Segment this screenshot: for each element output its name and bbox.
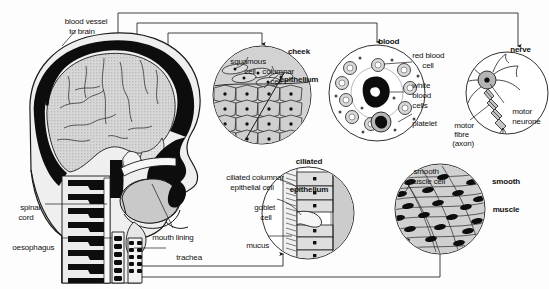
goblet-cell-text: cell	[260, 213, 271, 222]
platelet-text: platelet	[412, 119, 437, 128]
label-trachea: trachea	[168, 244, 202, 272]
spinal-cord-text: spinal cord	[19, 203, 41, 221]
trachea-text: trachea	[176, 253, 202, 262]
blood-title-text: blood	[378, 37, 399, 46]
label-neurone: neurone	[504, 108, 541, 136]
label-smooth-muscle-cell-2: muscle cell	[392, 168, 452, 196]
mouth-lining-text: mouth lining	[152, 233, 193, 242]
ciliated-title-line2: epithelium	[278, 185, 340, 194]
red-blood-cell-text: cell	[422, 61, 433, 70]
label-mucus: mucus	[238, 232, 269, 260]
columnar-cell-text: cell	[270, 77, 281, 86]
motor-fibre-3-text: (axon)	[452, 139, 474, 148]
label-squamous-cell: cell	[236, 58, 256, 86]
label-motor-fibre-3: (axon)	[444, 130, 474, 158]
blood-vessel-text: blood vessel to brain	[65, 17, 108, 35]
label-spinal-cord: spinal cord	[6, 194, 46, 232]
ciliated-title-line1: ciliated	[278, 157, 340, 166]
smooth-title-line1: smooth	[478, 177, 534, 186]
smooth-cell-2-text: muscle cell	[407, 177, 445, 186]
label-platelet: platelet	[404, 110, 437, 138]
inset-title-blood: blood	[370, 28, 399, 56]
epithelial-cell-text: epithelial cell	[230, 183, 274, 192]
label-oesophagus: oesophagus	[4, 234, 54, 262]
diagram-canvas: blood vessel to brain spinal cord oesoph…	[0, 0, 549, 289]
mucus-text: mucus	[246, 241, 269, 250]
oesophagus-text: oesophagus	[12, 243, 54, 252]
inset-title-ciliated-epithelium: ciliated epithelium	[278, 138, 340, 213]
trachea-structure	[128, 238, 142, 283]
smooth-title-line2: muscle	[478, 205, 534, 214]
neurone-text: neurone	[512, 117, 540, 126]
nerve-title-text: nerve	[510, 45, 531, 54]
label-columnar-cell: cell	[262, 68, 282, 96]
label-blood-vessel-to-brain: blood vessel to brain	[44, 8, 120, 46]
cheek-title-line1: cheek	[268, 47, 330, 56]
spinal-column	[62, 176, 110, 283]
oesophagus-structure	[112, 232, 124, 283]
label-goblet-cell: cell	[252, 204, 272, 232]
inset-title-nerve: nerve	[502, 36, 531, 64]
inset-title-smooth-muscle: smooth muscle	[478, 158, 534, 233]
